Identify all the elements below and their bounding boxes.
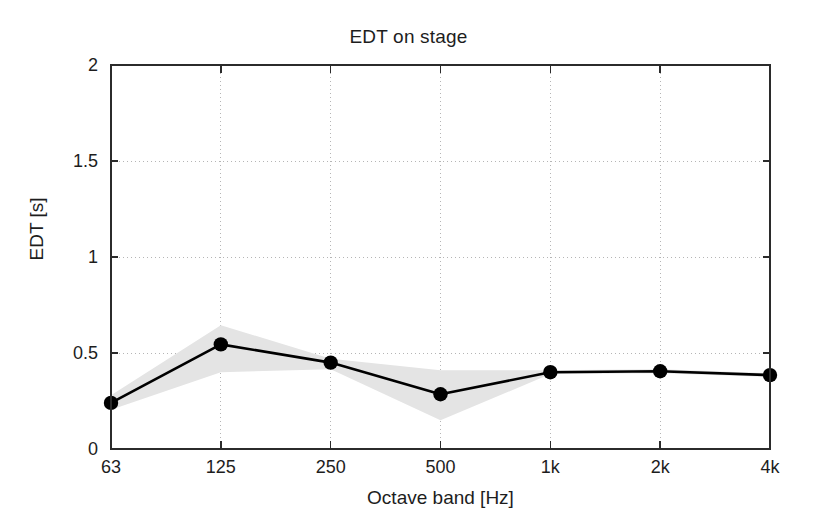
- svg-text:500: 500: [425, 457, 455, 477]
- svg-text:2k: 2k: [651, 457, 671, 477]
- svg-text:250: 250: [316, 457, 346, 477]
- svg-text:2: 2: [88, 55, 98, 75]
- svg-text:4k: 4k: [760, 457, 780, 477]
- svg-text:63: 63: [101, 457, 121, 477]
- plot-area: 00.511.52 631252505001k2k4k: [0, 0, 817, 526]
- chart-figure: EDT on stage 00.511.52 631252505001k2k4k…: [0, 0, 817, 526]
- svg-text:1.5: 1.5: [73, 151, 98, 171]
- svg-text:1: 1: [88, 247, 98, 267]
- svg-text:1k: 1k: [541, 457, 561, 477]
- svg-text:0: 0: [88, 439, 98, 459]
- svg-text:125: 125: [206, 457, 236, 477]
- y-axis-label: EDT [s]: [26, 169, 48, 289]
- x-axis-label: Octave band [Hz]: [111, 487, 770, 509]
- svg-text:0.5: 0.5: [73, 343, 98, 363]
